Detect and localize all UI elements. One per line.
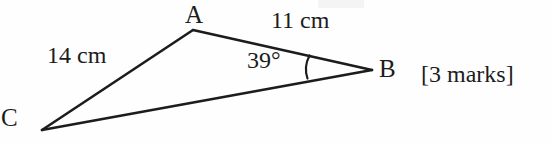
side-length-label-ab: 11 cm [271, 8, 329, 32]
question-figure-canvas: A B C 14 cm 11 cm 39° [3 marks] [0, 0, 552, 143]
side-length-label-ca: 14 cm [47, 43, 106, 67]
angle-measure-label-b: 39° [247, 48, 281, 72]
vertex-label-a: A [185, 2, 203, 27]
vertex-label-c: C [1, 105, 18, 130]
vertex-label-b: B [379, 56, 396, 81]
triangle-side-cb [42, 70, 372, 130]
marks-allocation-label: [3 marks] [421, 62, 514, 86]
angle-arc-at-b [306, 56, 310, 79]
triangle-side-ab [193, 30, 372, 70]
